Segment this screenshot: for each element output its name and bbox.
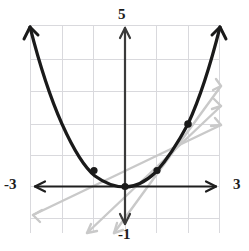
y-axis-min-label: -1 [118, 226, 131, 243]
x-axis-max-label: 3 [233, 176, 241, 193]
x-axis-min-label: -3 [4, 176, 17, 193]
point-left [90, 167, 97, 174]
secant-line-2 [87, 99, 221, 233]
point-fixed [184, 120, 192, 128]
point-mid [153, 167, 160, 174]
graph-figure: 5 -3 3 -1 [0, 0, 249, 251]
y-axis-max-label: 5 [118, 6, 126, 23]
point-vertex [121, 183, 128, 190]
coordinate-plane [0, 0, 249, 251]
